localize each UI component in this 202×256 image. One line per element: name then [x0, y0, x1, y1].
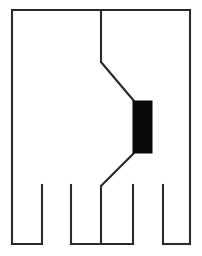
technical-figure-canvas [0, 0, 202, 256]
solid-black-block [133, 101, 152, 153]
